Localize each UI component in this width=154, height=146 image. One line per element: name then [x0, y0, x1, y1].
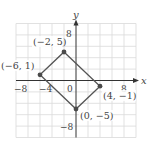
coordinate-plane: x y −8 −4 0 8 8 −8 (−2, 5) (−6, 1) (4, −…: [0, 0, 154, 146]
label-point-0-neg5: (0, −5): [80, 110, 114, 121]
label-point-neg6-1: (−6, 1): [1, 60, 35, 71]
y-axis-label: y: [72, 9, 79, 20]
label-point-neg2-5: (−2, 5): [33, 36, 67, 47]
x-axis-label: x: [141, 75, 147, 86]
point-4-neg1: [98, 84, 103, 89]
origin-label: 0: [67, 84, 73, 94]
point-neg6-1: [38, 72, 43, 77]
point-neg2-5: [62, 50, 67, 55]
y-tick-neg8: −8: [60, 122, 74, 132]
y-tick-8: 8: [66, 29, 72, 39]
y-axis-arrow-icon: [74, 20, 79, 26]
x-tick-neg8: −8: [14, 84, 28, 94]
label-point-4-neg1: (4, −1): [103, 90, 137, 101]
point-0-neg5: [74, 107, 79, 112]
